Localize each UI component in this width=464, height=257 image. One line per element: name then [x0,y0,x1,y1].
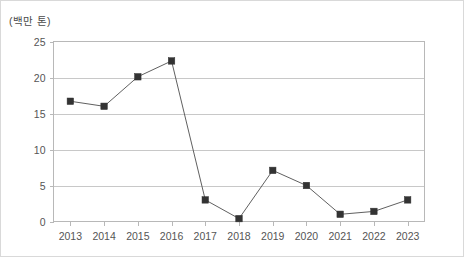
x-tick-label: 2020 [295,230,319,242]
data-point-marker [236,215,243,222]
plot-area-frame [54,42,425,222]
x-tick-label: 2019 [261,230,285,242]
data-point-marker [168,58,175,65]
data-series-line [70,61,407,219]
data-point-marker [269,167,276,174]
x-tick-label: 2022 [362,230,386,242]
y-tick-label: 10 [34,144,46,156]
data-point-marker [337,211,344,218]
y-tick-label: 0 [40,216,46,228]
data-point-marker [67,98,74,105]
data-point-marker [303,182,310,189]
data-point-marker [135,74,142,81]
x-tick-label: 2021 [329,230,353,242]
x-tick-label: 2013 [59,230,83,242]
y-tick-label: 25 [34,36,46,48]
x-tick-label: 2023 [396,230,420,242]
y-tick-label: 15 [34,108,46,120]
x-tick-label: 2014 [92,230,116,242]
line-chart-plot: 0510152025 20132014201520162017201820192… [1,1,464,257]
y-tick-marks-group [50,43,54,223]
data-point-marker [371,208,378,215]
x-tick-label: 2015 [126,230,150,242]
x-tick-label: 2018 [227,230,251,242]
gridlines-group [54,79,425,187]
data-markers-group [67,58,411,222]
y-tick-labels-group: 0510152025 [34,36,46,228]
data-point-marker [101,103,108,110]
data-point-marker [404,197,411,204]
x-tick-label: 2016 [160,230,184,242]
y-tick-label: 5 [40,180,46,192]
chart-figure: (백만 톤) 0510152025 2013201420152016201720… [0,0,464,257]
y-tick-label: 20 [34,72,46,84]
x-tick-label: 2017 [194,230,218,242]
x-tick-labels-group: 2013201420152016201720182019202020212022… [59,230,420,242]
data-point-marker [202,197,209,204]
